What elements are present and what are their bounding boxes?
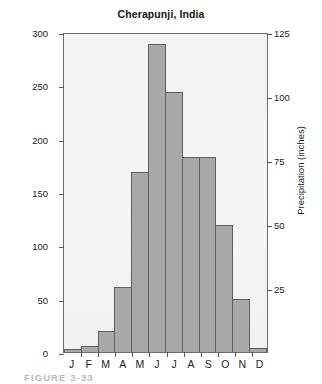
left-tick-label-0: 0 (14, 348, 48, 359)
right-tick-25 (267, 290, 272, 291)
x-tick-label-2: M (97, 358, 115, 370)
x-tick-label-10: N (233, 358, 251, 370)
left-tick-label-200: 200 (14, 134, 48, 145)
right-tick-label-25: 25 (274, 284, 308, 295)
bar-j-0 (64, 349, 82, 352)
left-tick-label-250: 250 (14, 81, 48, 92)
x-tick-5 (149, 352, 150, 357)
x-tick-label-8: S (199, 358, 217, 370)
x-tick-1 (81, 352, 82, 357)
x-tick-label-7: A (182, 358, 200, 370)
right-tick-75 (267, 162, 272, 163)
x-tick-label-6: J (165, 358, 183, 370)
bar-j-6 (165, 92, 183, 352)
left-tick-150 (59, 194, 64, 195)
left-tick-label-50: 50 (14, 294, 48, 305)
bar-a-3 (114, 287, 132, 352)
x-tick-2 (98, 352, 99, 357)
x-tick-11 (252, 352, 253, 357)
figure-caption: FIGURE 3-33 (24, 372, 94, 383)
plot-area (63, 33, 268, 353)
x-tick-label-4: M (131, 358, 149, 370)
x-tick-label-5: J (148, 358, 166, 370)
bar-s-8 (199, 157, 217, 352)
bar-m-4 (131, 172, 149, 352)
left-tick-50 (59, 301, 64, 302)
left-tick-0 (59, 354, 64, 355)
right-tick-125 (267, 34, 272, 35)
left-tick-300 (59, 34, 64, 35)
x-tick-label-0: J (63, 358, 81, 370)
chart-title: Cherapunji, India (0, 8, 322, 20)
left-tick-label-100: 100 (14, 241, 48, 252)
right-tick-50 (267, 226, 272, 227)
bar-f-1 (81, 346, 99, 352)
bar-j-5 (148, 44, 166, 352)
x-tick-label-11: D (250, 358, 268, 370)
x-tick-7 (184, 352, 185, 357)
right-tick-100 (267, 98, 272, 99)
bar-n-10 (232, 299, 250, 352)
left-tick-200 (59, 141, 64, 142)
left-tick-label-150: 150 (14, 188, 48, 199)
right-tick-label-125: 125 (274, 28, 308, 39)
bar-m-2 (98, 331, 116, 352)
x-tick-3 (115, 352, 116, 357)
left-tick-100 (59, 247, 64, 248)
x-tick-4 (132, 352, 133, 357)
figure-container: Cherapunji, India 050100150200250300 255… (0, 0, 322, 384)
x-tick-8 (201, 352, 202, 357)
x-tick-label-9: O (216, 358, 234, 370)
bar-o-9 (215, 225, 233, 352)
left-tick-250 (59, 87, 64, 88)
bar-a-7 (182, 157, 200, 352)
x-tick-6 (167, 352, 168, 357)
x-tick-label-1: F (80, 358, 98, 370)
x-tick-label-3: A (114, 358, 132, 370)
x-tick-9 (218, 352, 219, 357)
bar-series (64, 34, 267, 352)
left-tick-label-300: 300 (14, 28, 48, 39)
x-tick-10 (235, 352, 236, 357)
right-axis-title: Precipitation (inches) (295, 96, 306, 246)
